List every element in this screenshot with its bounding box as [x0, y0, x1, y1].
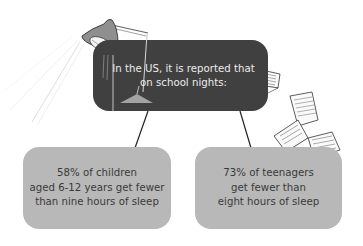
- fact-box-children: 58% of children aged 6-12 years get fewe…: [23, 147, 171, 229]
- fact-children-line-2: aged 6-12 years get fewer: [30, 181, 165, 196]
- fact-teenagers-line-1: 73% of teenagers: [218, 166, 319, 181]
- header-line-2: on school nights:: [112, 76, 254, 90]
- sleep-facts-diagram: In the US, it is reported that on school…: [0, 0, 363, 246]
- header-line-1: In the US, it is reported that: [112, 62, 254, 76]
- fact-children-line-1: 58% of children: [30, 166, 165, 181]
- paper-sheet-icon: [290, 92, 318, 126]
- connector-right: [240, 111, 251, 148]
- fact-teenagers-line-3: eight hours of sleep: [218, 195, 319, 210]
- connector-left: [135, 111, 148, 148]
- fact-teenagers-line-2: get fewer than: [218, 181, 319, 196]
- header-box: In the US, it is reported that on school…: [93, 40, 268, 111]
- fact-children-line-3: than nine hours of sleep: [30, 195, 165, 210]
- fact-box-teenagers: 73% of teenagers get fewer than eight ho…: [195, 147, 342, 229]
